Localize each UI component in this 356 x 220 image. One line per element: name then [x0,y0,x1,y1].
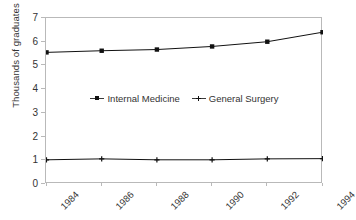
data-point-marker [46,157,49,162]
x-tick-mark [211,183,212,186]
x-tick-mark [322,183,323,186]
plot-area: Internal MedicineGeneral Surgery [45,17,322,183]
series-line [47,159,323,160]
x-axis-tick-labels: 198419861988199019921994 [0,183,342,220]
x-tick-mark [46,183,47,186]
x-tick-mark [266,183,267,186]
data-lines-layer [46,18,323,184]
data-point-marker [210,44,214,48]
series-2 [46,156,323,162]
data-point-marker [265,156,270,161]
y-tick-label: 3 [0,106,38,117]
y-tick-label: 2 [0,130,38,141]
data-point-marker [46,50,49,54]
series-1 [46,30,323,55]
data-point-marker [265,40,269,44]
data-point-marker [210,157,215,162]
x-tick-label: 1984 [58,189,81,212]
y-tick-label: 1 [0,154,38,165]
x-tick-label: 1990 [223,189,246,212]
x-tick-label: 1992 [278,189,301,212]
data-point-marker [99,156,104,161]
data-point-marker [320,156,323,161]
data-point-marker [155,47,159,51]
series-line [47,32,323,52]
data-point-marker [100,49,104,53]
x-tick-label: 1988 [168,189,191,212]
data-point-marker [154,157,159,162]
y-tick-label: 4 [0,83,38,94]
y-tick-label: 7 [0,12,38,23]
x-tick-mark [101,183,102,186]
y-tick-label: 5 [0,59,38,70]
y-tick-label: 6 [0,35,38,46]
x-tick-label: 1986 [113,189,136,212]
x-tick-mark [156,183,157,186]
x-tick-label: 1994 [334,189,356,212]
data-point-marker [320,30,323,34]
